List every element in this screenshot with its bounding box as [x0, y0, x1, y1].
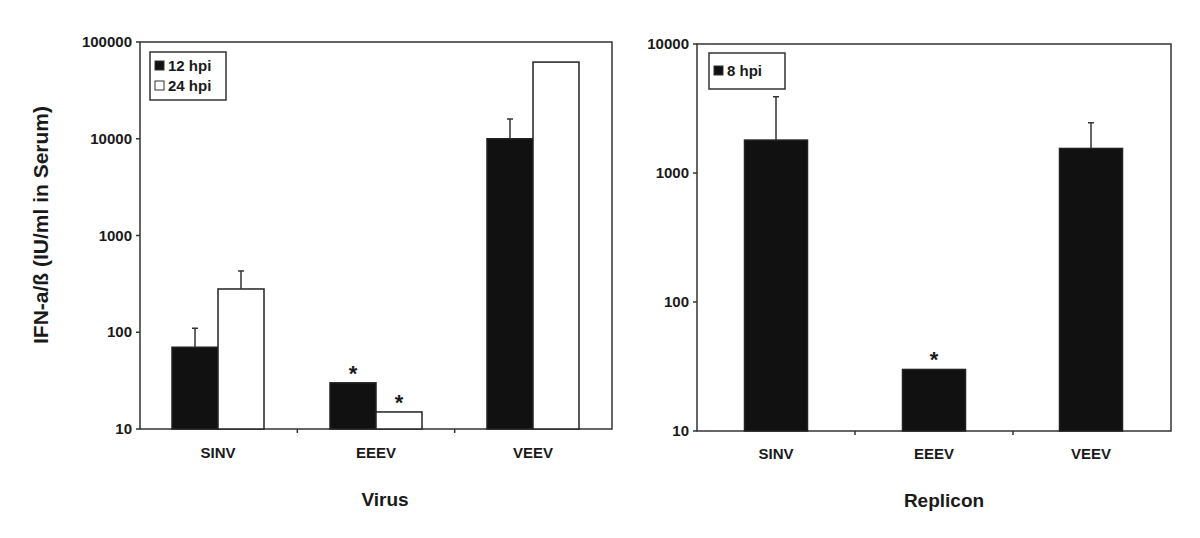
y-tick-label: 100: [107, 323, 132, 340]
legend-swatch: [155, 61, 164, 70]
y-axis-title: IFN-a/ß (IU/ml in Serum): [29, 106, 52, 344]
x-category-label: VEEV: [513, 444, 553, 461]
bar-sinv-8-hpi: [745, 140, 808, 431]
x-axis-title: Replicon: [904, 490, 984, 511]
significance-asterisk: *: [930, 347, 939, 372]
legend: 12 hpi24 hpi: [150, 52, 226, 100]
x-category-label: VEEV: [1071, 445, 1111, 462]
legend-swatch: [714, 66, 723, 75]
bar-sinv-12-hpi: [172, 347, 218, 429]
x-category-label: SINV: [200, 444, 235, 461]
y-tick-label: 1000: [99, 227, 132, 244]
chart-canvas: 10100100010000100000SINV**EEEVVEEVVirus1…: [0, 0, 1200, 538]
y-tick-label: 1000: [656, 164, 689, 181]
y-tick-label: 10: [115, 420, 132, 437]
x-category-label: EEEV: [356, 444, 396, 461]
bar-sinv-24-hpi: [218, 289, 264, 429]
significance-asterisk: *: [395, 390, 404, 415]
significance-asterisk: *: [349, 361, 358, 386]
figure: 10100100010000100000SINV**EEEVVEEVVirus1…: [0, 0, 1200, 538]
y-tick-label: 10: [672, 422, 689, 439]
bar-veev-24-hpi: [533, 62, 579, 429]
y-tick-label: 10000: [90, 130, 132, 147]
legend-swatch: [155, 81, 164, 90]
legend-label: 12 hpi: [168, 57, 211, 74]
x-axis-title: Virus: [361, 489, 408, 510]
legend-label: 8 hpi: [727, 62, 762, 79]
y-tick-label: 10000: [647, 35, 689, 52]
legend-label: 24 hpi: [168, 77, 211, 94]
bar-veev-12-hpi: [487, 139, 533, 429]
y-tick-label: 100: [664, 293, 689, 310]
bar-eeev-12-hpi: [330, 383, 376, 429]
bar-veev-8-hpi: [1060, 148, 1123, 431]
x-category-label: EEEV: [914, 445, 954, 462]
legend: 8 hpi: [709, 53, 785, 89]
y-tick-label: 100000: [82, 33, 132, 50]
virus-chart: 10100100010000100000SINV**EEEVVEEVVirus1…: [82, 33, 612, 510]
bar-eeev-8-hpi: [903, 369, 966, 431]
x-category-label: SINV: [758, 445, 793, 462]
replicon-chart: 10100100010000SINV*EEEVVEEVReplicon8 hpi: [647, 35, 1171, 511]
